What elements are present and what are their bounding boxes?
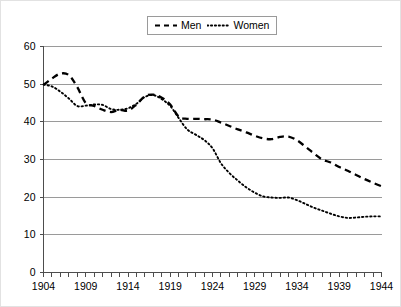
y-tick-label: 0 (14, 267, 36, 278)
x-tick-label: 1914 (108, 281, 148, 292)
x-tick-label: 1944 (362, 281, 401, 292)
y-tick-label: 40 (14, 116, 36, 127)
x-tick-label: 1909 (66, 281, 106, 292)
x-tick-label: 1934 (277, 281, 317, 292)
series-line-men (44, 73, 382, 186)
x-tick-label: 1924 (193, 281, 233, 292)
x-tick-label: 1929 (235, 281, 275, 292)
y-tick-label: 30 (14, 154, 36, 165)
series-line-women (44, 85, 382, 218)
y-tick-label: 20 (14, 192, 36, 203)
plot-area (1, 1, 401, 307)
x-tick-label: 1904 (24, 281, 64, 292)
x-tick-label: 1939 (319, 281, 359, 292)
chart-figure: Men Women 605040302010019041909191419191… (0, 0, 401, 307)
y-tick-label: 50 (14, 79, 36, 90)
y-tick-label: 60 (14, 41, 36, 52)
x-tick-label: 1919 (150, 281, 190, 292)
y-tick-label: 10 (14, 229, 36, 240)
